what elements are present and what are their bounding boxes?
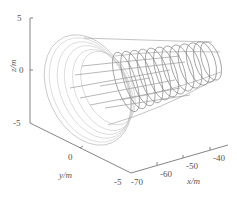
3d-plot: 5 0 -5 z/m 0 -5 y/m -70 -60 -50 -40 x/m bbox=[0, 0, 237, 198]
z-tick-label-5: 5 bbox=[17, 13, 22, 23]
z-tick-label-0: 0 bbox=[19, 65, 24, 75]
y-tick-0 bbox=[80, 146, 83, 148]
x-tick-label-neg60: -60 bbox=[160, 169, 172, 179]
funnel-surface bbox=[27, 21, 226, 160]
y-tick-label-0: 0 bbox=[68, 152, 73, 162]
z-axis-label: z/m bbox=[8, 59, 18, 73]
z-tick-label-neg5: -5 bbox=[13, 118, 21, 128]
x-tick-label-neg50: -50 bbox=[186, 161, 198, 171]
x-tick-label-neg70: -70 bbox=[131, 177, 143, 187]
x-tick-label-neg40: -40 bbox=[213, 153, 225, 163]
x-axis-label: x/m bbox=[186, 176, 200, 186]
axes bbox=[30, 18, 228, 173]
y-axis-label: y/m bbox=[58, 170, 72, 180]
y-tick-label-neg5: -5 bbox=[114, 177, 122, 187]
